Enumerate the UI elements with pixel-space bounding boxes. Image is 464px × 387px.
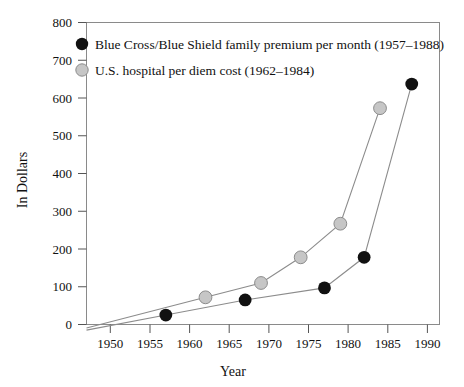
data-point-s0-1957[interactable] bbox=[159, 309, 172, 322]
y-tick-label-200: 200 bbox=[53, 242, 73, 257]
x-tick-label-1980: 1980 bbox=[335, 336, 361, 351]
x-tick-label-1970: 1970 bbox=[256, 336, 282, 351]
x-axis-title: Year bbox=[220, 364, 246, 379]
data-point-s1-1974[interactable] bbox=[294, 251, 307, 264]
legend-label-1: U.S. hospital per diem cost (1962–1984) bbox=[95, 63, 314, 78]
series-line-0 bbox=[87, 84, 412, 330]
x-axis-ticks bbox=[110, 325, 427, 334]
series-layer bbox=[87, 78, 419, 331]
y-axis-tick-labels: 0 100 200 300 400 500 600 700 800 bbox=[53, 15, 73, 332]
x-tick-label-1990: 1990 bbox=[414, 336, 440, 351]
line-chart: 0 100 200 300 400 500 600 700 800 1950 1… bbox=[0, 0, 464, 387]
y-tick-label-100: 100 bbox=[53, 279, 73, 294]
data-point-s1-1962[interactable] bbox=[199, 291, 212, 304]
x-tick-label-1975: 1975 bbox=[296, 336, 322, 351]
y-tick-label-300: 300 bbox=[53, 204, 73, 219]
x-tick-label-1955: 1955 bbox=[137, 336, 163, 351]
chart-page: 0 100 200 300 400 500 600 700 800 1950 1… bbox=[0, 0, 464, 387]
x-tick-label-1950: 1950 bbox=[97, 336, 123, 351]
x-tick-label-1985: 1985 bbox=[375, 336, 401, 351]
legend-marker-gray-circle-icon bbox=[76, 64, 88, 76]
data-point-s1-1969[interactable] bbox=[255, 277, 268, 290]
y-tick-label-600: 600 bbox=[53, 91, 73, 106]
data-point-s0-1982[interactable] bbox=[358, 251, 371, 264]
data-point-s1-1979[interactable] bbox=[334, 217, 347, 230]
x-tick-label-1960: 1960 bbox=[177, 336, 203, 351]
y-tick-label-700: 700 bbox=[53, 53, 73, 68]
chart-legend: Blue Cross/Blue Shield family premium pe… bbox=[76, 37, 444, 78]
legend-marker-black-circle-icon bbox=[76, 38, 88, 50]
legend-label-0: Blue Cross/Blue Shield family premium pe… bbox=[95, 37, 444, 52]
data-point-s0-1988[interactable] bbox=[405, 78, 418, 91]
y-tick-label-800: 800 bbox=[53, 15, 73, 30]
data-point-s1-1984[interactable] bbox=[374, 102, 387, 115]
y-tick-label-0: 0 bbox=[66, 317, 73, 332]
y-tick-label-500: 500 bbox=[53, 128, 73, 143]
x-tick-label-1965: 1965 bbox=[216, 336, 242, 351]
y-tick-label-400: 400 bbox=[53, 166, 73, 181]
series-line-1 bbox=[87, 108, 381, 328]
y-axis-title: In Dollars bbox=[15, 152, 30, 208]
x-axis-tick-labels: 1950 1955 1960 1965 1970 1975 1980 1985 … bbox=[97, 336, 440, 351]
data-point-s0-1967[interactable] bbox=[239, 294, 252, 307]
data-point-s0-1977[interactable] bbox=[318, 281, 331, 294]
